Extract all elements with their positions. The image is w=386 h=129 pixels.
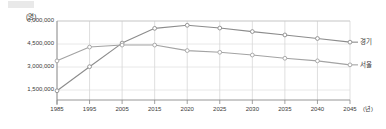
x-tick-label: 2040	[311, 106, 324, 113]
x-tick-label: 2020	[181, 106, 194, 113]
x-tick-label: 1995	[83, 106, 96, 113]
x-tick-label: 2015	[148, 106, 161, 113]
x-tick-label: 2045	[343, 106, 356, 113]
series-label-gyeonggi: 경기	[360, 38, 372, 45]
x-tick-label: 2035	[278, 106, 291, 113]
x-tick-label: 2025	[213, 106, 226, 113]
x-axis-labels: 1985199520052015202020252030203520402045…	[0, 0, 386, 129]
series-label-seoul: 서울	[360, 61, 372, 68]
x-tick-label: 2030	[246, 106, 259, 113]
x-tick-label: 1985	[50, 106, 63, 113]
x-axis-unit-label: (년)	[363, 106, 373, 113]
x-tick-label: 2005	[115, 106, 128, 113]
line-chart: (명) 6,000,000 4,500,000 3,000,000 1,500,…	[0, 0, 386, 129]
